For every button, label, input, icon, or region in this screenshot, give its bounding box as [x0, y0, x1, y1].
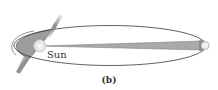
figure-caption: (b): [0, 75, 218, 85]
sun-icon: [34, 40, 47, 53]
planet-blur-lower-icon: [16, 56, 30, 74]
planet-blur-upper-icon: [46, 14, 63, 38]
sun-label: Sun: [47, 49, 67, 60]
planet-aphelion-icon: [201, 42, 209, 50]
